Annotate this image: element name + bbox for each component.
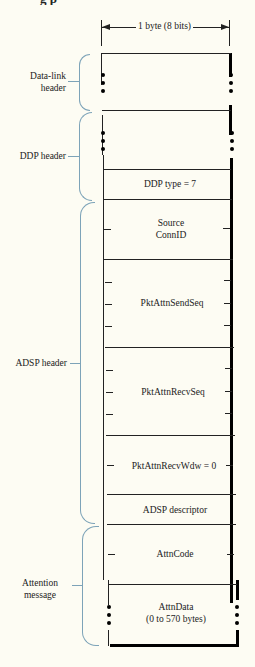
ellipsis-dot <box>230 131 234 135</box>
field-ddp-type: DDP type = 7 <box>104 178 236 190</box>
group-label-line: Data-link <box>10 70 66 82</box>
arrow-right-icon <box>221 24 229 30</box>
group-label-adsp-header: ADSP header <box>0 357 67 369</box>
field-attn-code: AttnCode <box>109 548 241 560</box>
byte-width-label: 1 byte (8 bits) <box>136 21 193 31</box>
box-left-edge <box>103 155 104 580</box>
field-attn-data: AttnData (0 to 570 bytes) <box>110 601 242 625</box>
group-label-line: Attention <box>10 577 70 589</box>
field-divider <box>107 494 236 495</box>
group-label-data-link-header: Data-link header <box>10 70 66 94</box>
bracket-pointer <box>70 363 80 364</box>
ellipsis-dot <box>101 89 105 93</box>
box-bottom-edge <box>110 644 239 647</box>
field-divider <box>103 199 232 200</box>
group-label-line: header <box>10 82 66 94</box>
field-divider <box>103 169 231 170</box>
ellipsis-dot <box>101 81 105 85</box>
byte-tick <box>225 413 232 414</box>
field-divider <box>108 584 237 585</box>
figure-title-cropped: g p <box>0 0 255 5</box>
bracket-pointer <box>72 585 82 586</box>
byte-tick <box>106 414 113 415</box>
byte-tick <box>224 280 231 281</box>
ellipsis-dot <box>101 131 105 135</box>
field-divider <box>101 53 231 54</box>
ellipsis-dot <box>230 147 234 151</box>
field-label-line: (0 to 570 bytes) <box>110 613 242 625</box>
byte-tick <box>106 370 113 371</box>
byte-tick <box>224 325 231 326</box>
ellipsis-dot <box>229 89 233 93</box>
field-adsp-descriptor: ADSP descriptor <box>109 504 241 516</box>
ellipsis-dot <box>101 147 105 151</box>
byte-tick <box>105 282 112 283</box>
field-divider <box>107 524 236 525</box>
field-pkt-attn-recv-seq: PktAttnRecvSeq <box>107 386 239 398</box>
field-label-line: ConnID <box>105 229 237 241</box>
bracket-attention-message <box>82 526 99 646</box>
box-left-edge <box>108 630 109 646</box>
ellipsis-dot <box>101 73 105 77</box>
bracket-data-link-header <box>79 54 90 111</box>
bracket-adsp-header <box>80 202 95 524</box>
byte-tick <box>225 368 232 369</box>
field-label-line: Source <box>105 217 237 229</box>
ellipsis-dot <box>229 81 233 85</box>
arrow-left-icon <box>102 24 110 30</box>
bracket-pointer <box>68 156 79 157</box>
box-right-edge <box>236 580 239 600</box>
ellipsis-dot <box>230 139 234 143</box>
bracket-ddp-header <box>79 112 92 201</box>
field-divider <box>105 347 234 348</box>
group-label-line: message <box>10 589 70 601</box>
figure-title-text: g p <box>40 0 57 5</box>
group-label-ddp-header: DDP header <box>0 150 66 162</box>
ellipsis-dot <box>101 139 105 143</box>
field-divider <box>106 435 235 436</box>
byte-tick <box>105 326 112 327</box>
field-pkt-attn-recv-wdw: PktAttnRecvWdw = 0 <box>108 460 240 472</box>
field-label-line: AttnData <box>110 601 242 613</box>
field-divider <box>102 110 231 111</box>
ellipsis-dot <box>229 73 233 77</box>
field-divider <box>104 259 233 260</box>
byte-width-right-tick <box>229 20 230 46</box>
field-pkt-attn-send-seq: PktAttnSendSeq <box>106 297 238 309</box>
field-source-connid: Source ConnID <box>105 217 237 241</box>
group-label-attention-message: Attention message <box>10 577 70 601</box>
bracket-pointer <box>68 81 79 82</box>
